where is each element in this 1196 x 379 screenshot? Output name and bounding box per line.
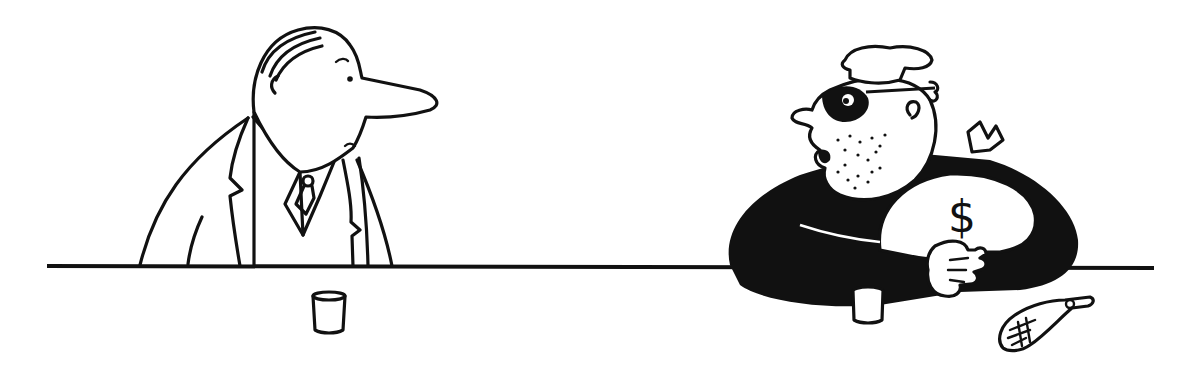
floor-purse xyxy=(1000,297,1094,351)
dollar-sign: $ xyxy=(948,191,976,242)
man-in-suit xyxy=(140,28,437,266)
burglar: $ xyxy=(729,47,1078,307)
glass-left xyxy=(313,292,345,333)
cartoon-scene: $ xyxy=(0,0,1196,379)
glass-right xyxy=(853,287,883,323)
